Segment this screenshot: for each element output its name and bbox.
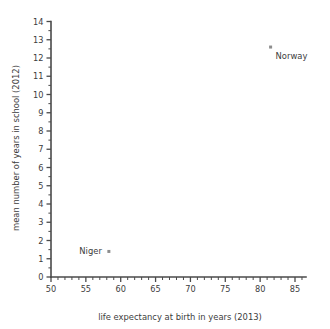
- scatter-chart: 012345678910111213145055606570758085 Nig…: [0, 0, 330, 329]
- x-tick-label: 75: [220, 284, 230, 294]
- data-point-label: Niger: [79, 246, 102, 256]
- plot-svg: 012345678910111213145055606570758085 Nig…: [0, 0, 330, 329]
- x-axis-title: life expectancy at birth in years (2013): [98, 312, 262, 322]
- y-tick-label: 6: [38, 163, 43, 173]
- x-tick-label: 65: [150, 284, 160, 294]
- y-tick-label: 4: [38, 199, 43, 209]
- y-tick-label: 2: [38, 236, 43, 246]
- data-point-labels: NigerNorway: [79, 51, 307, 256]
- y-tick-label: 3: [38, 217, 43, 227]
- tick-marks: [47, 22, 302, 283]
- y-tick-label: 5: [38, 181, 43, 191]
- data-points: [107, 46, 272, 253]
- tick-labels: 012345678910111213145055606570758085: [33, 17, 300, 295]
- x-tick-label: 70: [185, 284, 195, 294]
- y-tick-label: 11: [33, 71, 43, 81]
- axes: [51, 22, 306, 278]
- y-tick-label: 10: [33, 90, 43, 100]
- y-axis-title: mean number of years in school (2012): [11, 65, 21, 231]
- y-tick-label: 14: [33, 17, 43, 27]
- data-point-marker: [269, 46, 272, 49]
- y-tick-label: 7: [38, 144, 43, 154]
- x-tick-label: 85: [290, 284, 300, 294]
- y-tick-label: 9: [38, 108, 43, 118]
- y-tick-label: 1: [38, 254, 43, 264]
- x-tick-label: 50: [46, 284, 56, 294]
- y-tick-label: 0: [38, 272, 43, 282]
- x-tick-label: 60: [116, 284, 126, 294]
- data-point-label: Norway: [276, 51, 308, 61]
- x-tick-label: 80: [255, 284, 265, 294]
- data-point-marker: [107, 250, 110, 253]
- y-tick-label: 8: [38, 126, 43, 136]
- y-tick-label: 12: [33, 53, 43, 63]
- y-tick-label: 13: [33, 35, 43, 45]
- x-tick-label: 55: [81, 284, 91, 294]
